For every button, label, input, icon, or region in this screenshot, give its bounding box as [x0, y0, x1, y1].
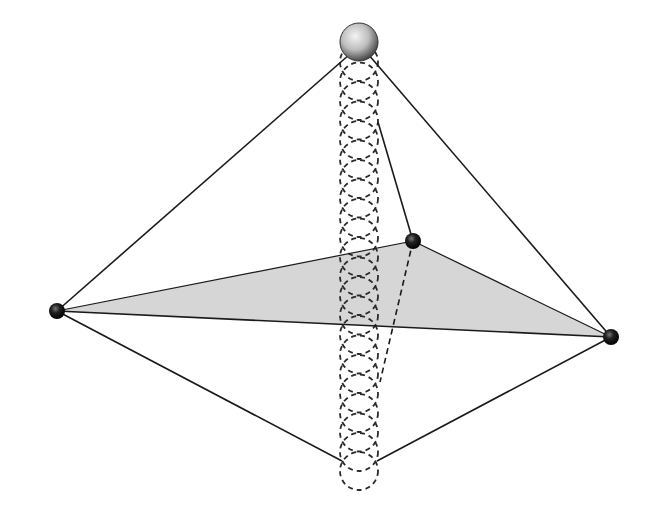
edge-right-bottom	[377, 337, 611, 461]
top-apex-sphere	[340, 23, 378, 61]
right-vertex-atom	[603, 329, 619, 345]
edge-left-bottom	[57, 311, 342, 461]
back-vertex-atom	[405, 233, 421, 249]
diagram-canvas	[0, 0, 659, 516]
trigonal-bipyramid-diagram	[0, 0, 659, 516]
equatorial-plane	[57, 241, 611, 337]
left-vertex-atom	[49, 303, 65, 319]
edge-back-top	[378, 122, 413, 241]
